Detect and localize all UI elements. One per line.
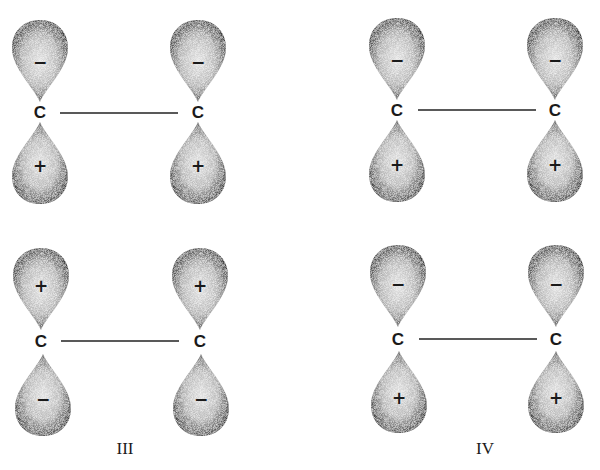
carbon-atom-2: − C + [170,20,226,204]
carbon-atom-1: + C − [13,248,71,436]
lower-lobe-sign: − [36,389,50,409]
upper-lobe-sign: − [549,274,563,294]
lower-lobe-sign: + [549,388,563,408]
upper-lobe-sign: − [391,274,405,294]
upper-lobe-sign: + [34,276,48,296]
lower-lobe-sign: + [392,388,406,408]
upper-lobe-sign: − [548,50,562,70]
carbon-label: C [192,103,204,122]
diagram-iv: − C + − C + IV [370,245,584,458]
carbon-label: C [392,330,404,349]
carbon-atom-1: − C + [12,20,68,204]
upper-lobe-sign: − [191,52,205,72]
lower-lobe-sign: + [390,155,404,175]
carbon-label: C [34,103,46,122]
carbon-atom-2: + C − [172,248,229,436]
carbon-label: C [550,330,562,349]
lower-lobe-sign: + [191,156,205,176]
upper-lobe-sign: − [33,52,47,72]
lower-lobe-sign: + [548,155,562,175]
carbon-atom-1: − C + [369,18,425,202]
lower-lobe-sign: − [194,389,208,409]
carbon-label: C [391,101,403,120]
diagram-label: IV [476,439,495,458]
diagram-label: III [117,439,134,458]
upper-lobe-sign: − [390,50,404,70]
carbon-label: C [35,332,47,351]
carbon-label: C [549,101,561,120]
carbon-label: C [194,332,206,351]
diagram-iii: + C − + C − III [13,248,229,458]
diagram-ii: − C + − C + [369,18,583,202]
diagram-i: − C + − C + [12,20,226,204]
upper-lobe-sign: + [193,276,207,296]
carbon-atom-1: − C + [370,245,427,433]
lower-lobe-sign: + [33,156,47,176]
p-orbital-diagram-figure: − C + − C + − C + − C + [0,0,600,470]
